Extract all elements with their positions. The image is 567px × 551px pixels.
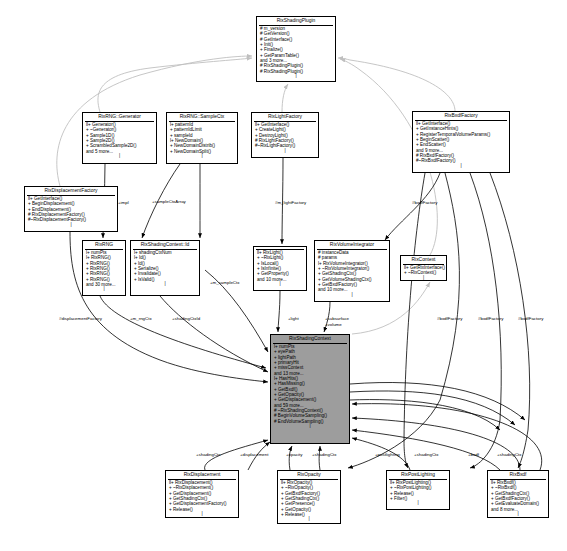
class-node-rixlight[interactable]: ll+ RixLight()+ ~RixLight()+ IsLocal()+ … [253, 246, 307, 291]
edge-label-samplectxarray: +sampleCtxArray [152, 199, 186, 204]
class-node-rixrng-samplectx[interactable]: RixRNG::SampleCtxl+ patternId+ patternId… [166, 112, 238, 164]
edge-label-subsurface: +subsurface [325, 316, 349, 321]
class-member: + GetEvaluateDomain() [490, 501, 546, 506]
edge-label-displacement: +displacement [240, 452, 268, 457]
class-node-title: RixDisplacementFactory [27, 188, 115, 194]
edge-label-shadingctxid: +shadingCtxId [172, 316, 200, 321]
class-node-rixshadingcontext-id[interactable]: RixShadingContext::Idl+ shadingCtxNuml+ … [130, 240, 200, 296]
class-node-footer: | [168, 512, 236, 516]
diagram-canvas: RixShadingPlugin# m_version# GetVersion(… [0, 0, 567, 551]
class-node-footer: | [256, 282, 304, 286]
class-node-footer: | [27, 223, 115, 227]
class-node-footer: | [389, 501, 447, 505]
class-node-footer: | [169, 154, 235, 158]
class-node-footer: | [415, 164, 507, 168]
class-node-rixrng-generator[interactable]: RixRNG::Generatorll+ Generator()+ ~Gener… [82, 112, 157, 164]
edge-label-shadingctx-2: +shadingCtx [312, 452, 337, 457]
class-node-title: RixVolumeIntegrator [317, 242, 387, 248]
class-node-footer: | [280, 517, 338, 521]
class-node-footer: | [490, 512, 546, 516]
class-node-title: RixBxdfFactory [415, 113, 507, 119]
class-node-rixpostlighting[interactable]: RixPostLightingll+ RixPostLighting()+ ~R… [386, 470, 450, 510]
edge-label-volume: +volume [325, 322, 342, 327]
class-node-title: RixDisplacement [168, 472, 236, 478]
class-node-rixopacity[interactable]: RixOpacityll+ RixOpacity()+ ~RixOpacity(… [277, 470, 341, 524]
class-node-title: RixRNG::Generator [85, 114, 154, 120]
edge-label-m-rngctx: +m_rngCtx [130, 316, 152, 321]
class-node-rixdisplacementfactory[interactable]: RixDisplacementFactoryll+ GetInterface()… [24, 186, 118, 232]
class-node-footer: | [85, 287, 123, 291]
edge-label-bxdffactory-r3: #bxdfFactory [518, 316, 543, 321]
edge-label-bxdffactory-top: #bxdfFactory [412, 200, 437, 205]
class-node-rixdisplacement[interactable]: RixDisplacementll+ RixDisplacement()+ ~R… [165, 470, 239, 518]
class-node-rixlightfactory[interactable]: RixLightFactoryll+ GetInterface()+ Creat… [251, 112, 319, 158]
class-node-rixvolumeintegrator[interactable]: RixVolumeIntegrator# instanceData# param… [314, 240, 390, 302]
class-node-footer: | [259, 74, 333, 78]
edge-label-postlighting: +postlighting [375, 452, 400, 457]
edge-label-m-lightfactory: #m_lightFactory [275, 200, 306, 205]
class-node-title: RixRNG::SampleCtx [169, 114, 235, 120]
edge-label-shadingctx-4: +shadingCtx [497, 452, 522, 457]
edge-label-shadingctx-1: +shadingCtx [196, 452, 221, 457]
edge-label-bxdffactory-r1: #bxdfFactory [437, 316, 462, 321]
class-node-rixbxdf[interactable]: RixBxdfll+ RixBxdf()+ ~RixBxdf()+ GetSha… [487, 470, 549, 518]
edge-label-shadingctx-3: +shadingCtx [414, 452, 439, 457]
class-node-title: RixContext [403, 257, 444, 263]
class-node-rixbxdffactory[interactable]: RixBxdfFactoryll+ GetInterface()+ GetIns… [412, 111, 510, 173]
class-node-rixshadingcontext[interactable]: RixShadingContextl+ numPts+ eyePath+ lig… [270, 334, 350, 444]
class-member: + GetDisplacementFactory() [168, 501, 236, 506]
class-node-title: RixShadingContext::Id [133, 242, 197, 248]
edge-label-opacity: +opacity [286, 452, 302, 457]
class-node-title: RixOpacity [280, 472, 338, 478]
class-node-rixshadingplugin[interactable]: RixShadingPlugin# m_version# GetVersion(… [256, 16, 336, 82]
class-node-footer: | [317, 293, 387, 297]
edge-label-bxdffactory-r2: #bxdfFactory [478, 316, 503, 321]
class-node-rixrng[interactable]: RixRNGl+ numPtsl+ RixRNG()+ RixRNG()+ Ri… [82, 240, 126, 296]
class-node-title: RixPostLighting [389, 472, 447, 478]
class-node-title: RixShadingContext [273, 336, 347, 342]
class-node-title: RixShadingPlugin [259, 18, 333, 24]
class-node-footer: | [273, 424, 347, 428]
edge-label-light: +light [288, 316, 299, 321]
class-node-title: RixBxdf [490, 472, 546, 478]
edge-label-bxdf: +bxdf [468, 452, 479, 457]
edge-label-impl: +impl [118, 200, 129, 205]
edge-label-m-samplectx: +m_sampleCtx [210, 280, 239, 285]
class-node-title: RixRNG [85, 242, 123, 248]
class-node-footer: | [133, 282, 197, 286]
edge-label-displacementfactory: #displacementFactory [59, 316, 102, 321]
class-node-footer: | [254, 149, 316, 153]
class-node-rixcontext[interactable]: RixContextll+ GetRixInterface()+ ~RixCon… [400, 255, 447, 281]
class-node-footer: | [403, 276, 444, 280]
class-node-footer: | [85, 154, 154, 158]
class-node-title: RixLightFactory [254, 114, 316, 120]
